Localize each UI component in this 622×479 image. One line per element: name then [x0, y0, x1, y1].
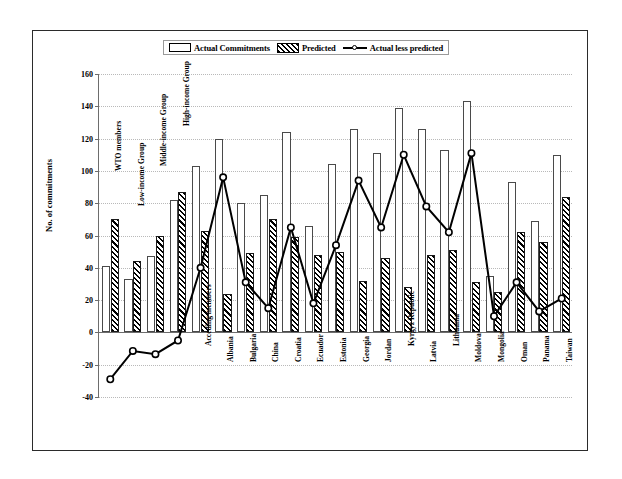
bar-predicted	[494, 292, 502, 332]
bar-predicted	[562, 197, 570, 333]
bar-actual	[237, 203, 245, 332]
x-category-label: Middle-income Group	[159, 94, 168, 166]
x-category-label: Bulgaria	[249, 334, 258, 362]
y-tick-label: 0	[89, 328, 93, 337]
y-tick-mark	[95, 236, 99, 237]
x-category-label: Kyrgyz Republic	[407, 291, 416, 346]
legend-label-predicted: Predicted	[302, 43, 336, 53]
x-category-label: Lithuania	[452, 314, 461, 346]
y-tick-label: 160	[81, 70, 93, 79]
legend-label-difference: Actual less predicted	[370, 43, 443, 53]
gridline	[99, 74, 572, 75]
gridline	[99, 139, 572, 140]
x-category-label: China	[271, 343, 280, 363]
difference-marker	[130, 348, 136, 354]
y-tick-label: 80	[85, 199, 93, 208]
gridline	[99, 365, 572, 366]
bar-predicted	[539, 242, 547, 332]
bar-predicted	[359, 281, 367, 333]
legend-entry-predicted: Predicted	[277, 43, 336, 53]
x-category-label: WTO members	[114, 121, 123, 171]
legend-entry-difference: Actual less predicted	[343, 43, 443, 53]
y-tick-mark	[95, 397, 99, 398]
bar-actual	[463, 101, 471, 332]
chart-figure: Actual Commitments Predicted Actual less…	[0, 0, 622, 479]
y-tick-label: -40	[82, 393, 93, 402]
difference-marker	[175, 337, 181, 343]
bar-predicted	[427, 255, 435, 333]
y-tick-label: 120	[81, 134, 93, 143]
bar-actual	[282, 132, 290, 332]
bar-actual	[215, 139, 223, 333]
bar-actual	[305, 226, 313, 333]
x-category-label: Low-income Group	[137, 143, 146, 206]
bar-actual	[418, 129, 426, 332]
y-tick-mark	[95, 268, 99, 269]
x-category-label: Acceding members	[204, 285, 213, 347]
x-category-label: Panama	[542, 336, 551, 363]
bar-actual	[147, 256, 155, 332]
y-tick-mark	[95, 139, 99, 140]
bar-actual	[350, 129, 358, 332]
x-category-label: Taiwan	[565, 339, 574, 363]
bar-actual	[553, 155, 561, 333]
legend-entry-actual: Actual Commitments	[169, 43, 270, 53]
x-category-label: Mongolia	[497, 332, 506, 363]
bar-predicted	[223, 294, 231, 333]
bar-predicted	[336, 252, 344, 333]
x-category-label: Jordan	[384, 339, 393, 362]
bar-actual	[328, 164, 336, 332]
x-category-label: Albania	[226, 337, 235, 363]
bar-predicted	[314, 255, 322, 333]
y-tick-label: -20	[82, 360, 93, 369]
y-tick-mark	[95, 171, 99, 172]
y-tick-mark	[95, 106, 99, 107]
bar-predicted	[517, 232, 525, 332]
y-axis-title: No. of commitments	[44, 159, 54, 232]
bar-predicted	[269, 219, 277, 332]
x-category-label: High-income Group	[182, 61, 191, 126]
bar-predicted	[381, 258, 389, 332]
bar-actual	[395, 108, 403, 332]
y-tick-label: 100	[81, 166, 93, 175]
plot-area: 160140120100806040200-20-40 WTO membersL…	[98, 74, 572, 397]
x-category-label: Ecuador	[316, 335, 325, 363]
y-tick-label: 140	[81, 102, 93, 111]
y-tick-mark	[95, 74, 99, 75]
y-tick-label: 40	[85, 263, 93, 272]
bar-actual	[486, 276, 494, 333]
bar-predicted	[133, 261, 141, 332]
gridline	[99, 397, 572, 398]
x-category-label: Latvia	[429, 341, 438, 362]
gridline	[99, 106, 572, 107]
bar-actual	[508, 182, 516, 332]
bar-actual	[102, 266, 110, 332]
bar-actual	[531, 221, 539, 332]
bar-actual	[192, 166, 200, 332]
bar-predicted	[291, 237, 299, 332]
y-tick-mark	[95, 365, 99, 366]
bar-actual	[373, 153, 381, 332]
y-tick-label: 20	[85, 296, 93, 305]
difference-marker	[107, 376, 113, 382]
bar-actual	[124, 279, 132, 332]
x-category-label: Croatia	[294, 338, 303, 363]
hatched-bar-icon	[277, 43, 299, 53]
y-tick-label: 60	[85, 231, 93, 240]
bar-predicted	[156, 236, 164, 333]
y-tick-mark	[95, 203, 99, 204]
bar-predicted	[111, 219, 119, 332]
open-bar-icon	[169, 43, 191, 52]
bar-predicted	[472, 282, 480, 332]
x-category-label: Georgia	[362, 336, 371, 362]
bar-actual	[170, 200, 178, 332]
difference-marker	[152, 351, 158, 357]
y-tick-mark	[95, 300, 99, 301]
chart-legend: Actual Commitments Predicted Actual less…	[163, 40, 449, 55]
bar-predicted	[178, 192, 186, 333]
bar-actual	[440, 150, 448, 332]
bar-predicted	[246, 253, 254, 332]
line-marker-icon	[343, 43, 367, 52]
legend-label-actual: Actual Commitments	[194, 43, 270, 53]
x-category-label: Oman	[520, 342, 529, 362]
